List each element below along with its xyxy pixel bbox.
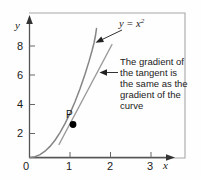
- curve-label-arrowhead: [96, 37, 105, 43]
- annotation-line-3: the same as the: [120, 78, 190, 89]
- y-tick-label-4: 4: [17, 99, 23, 110]
- figure-container: y x 0 8 6 4 2 1 2 3 P y = x2 The gradien…: [0, 0, 201, 179]
- point-p-marker: [70, 121, 77, 128]
- y-axis-arrowhead: [26, 15, 33, 24]
- annotation-line-5: curve: [120, 100, 190, 111]
- y-axis-label: y: [15, 20, 20, 31]
- x-tick-label-3: 3: [147, 161, 153, 172]
- curve-equation-text: y = x: [119, 18, 141, 29]
- x-tick-label-2: 2: [107, 161, 113, 172]
- x-axis-label: x: [163, 160, 168, 171]
- point-p-label: P: [66, 110, 73, 120]
- gradient-annotation: The gradient of the tangent is the same …: [120, 56, 190, 111]
- y-tick-label-8: 8: [17, 41, 23, 52]
- annotation-line-2: the tangent is: [120, 67, 190, 78]
- tangent-line: [59, 45, 112, 145]
- annotation-line-1: The gradient of: [120, 56, 190, 67]
- y-tick-label-2: 2: [17, 128, 23, 139]
- y-tick-label-6: 6: [17, 70, 23, 81]
- curve-equation-exponent: 2: [141, 17, 145, 25]
- origin-tick-label: 0: [23, 161, 29, 172]
- x-tick-label-1: 1: [66, 161, 72, 172]
- curve-equation-label: y = x2: [119, 19, 144, 30]
- annotation-line-4: gradient of the: [120, 89, 190, 100]
- annotation-arrowhead: [100, 69, 108, 76]
